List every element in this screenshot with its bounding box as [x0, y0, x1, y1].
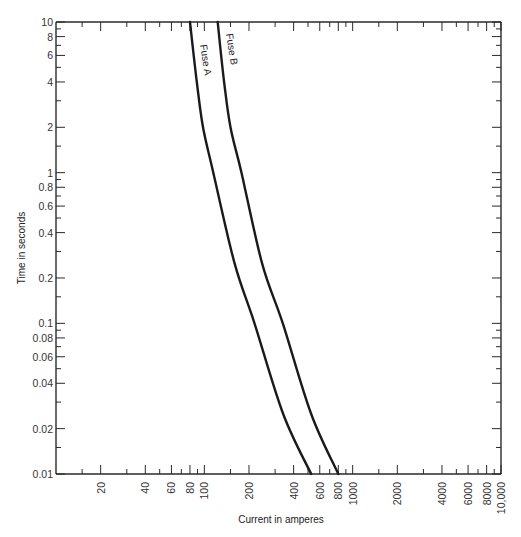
y-tick-label: 4: [47, 76, 53, 88]
y-tick-label: 0.06: [33, 351, 54, 363]
x-tick-label: 4000: [436, 482, 448, 506]
x-tick-label: 10,000: [495, 482, 507, 514]
y-tick-label: 1: [47, 167, 53, 179]
y-tick-label: 0.04: [33, 377, 54, 389]
x-tick-label: 1000: [347, 482, 359, 506]
x-tick-label: 200: [243, 482, 255, 500]
fuse-time-current-chart: 2040608010020040060080010002000400060008…: [0, 0, 521, 537]
y-tick-label: 0.2: [38, 272, 53, 284]
x-tick-label: 800: [332, 482, 344, 500]
y-tick-label: 0.8: [38, 181, 53, 193]
fuse-a-curve: [190, 22, 311, 474]
y-tick-label: 0.01: [33, 468, 54, 480]
y-tick-label: 0.08: [33, 332, 54, 344]
y-axis-title: Time in seconds: [16, 212, 27, 284]
x-axis-title: Current in amperes: [238, 514, 324, 525]
y-tick-label: 0.4: [38, 227, 53, 239]
fuse-a-label: Fuse A: [198, 44, 214, 77]
x-tick-label: 100: [198, 482, 210, 500]
x-tick-label: 2000: [391, 482, 403, 506]
fuse-b-label: Fuse B: [224, 33, 240, 66]
y-tick-label: 8: [47, 31, 53, 43]
y-tick-label: 0.02: [33, 423, 54, 435]
x-tick-label: 20: [95, 482, 107, 494]
y-tick-label: 0.6: [38, 200, 53, 212]
y-tick-label: 6: [47, 49, 53, 61]
x-tick-label: 8000: [481, 482, 493, 506]
y-tick-label: 10: [41, 16, 53, 28]
y-tick-label: 0.1: [38, 317, 53, 329]
x-tick-label: 60: [165, 482, 177, 494]
fuse-b-curve: [218, 22, 339, 474]
y-tick-label: 2: [47, 121, 53, 133]
x-tick-label: 400: [288, 482, 300, 500]
x-tick-label: 600: [314, 482, 326, 500]
fuse-curves: [190, 22, 338, 474]
x-tick-label: 80: [184, 482, 196, 494]
plot-frame: [56, 22, 501, 474]
y-axis-ticks: 10864210.80.60.40.20.10.080.060.040.020.…: [33, 16, 501, 480]
x-tick-label: 40: [139, 482, 151, 494]
x-tick-label: 6000: [462, 482, 474, 506]
